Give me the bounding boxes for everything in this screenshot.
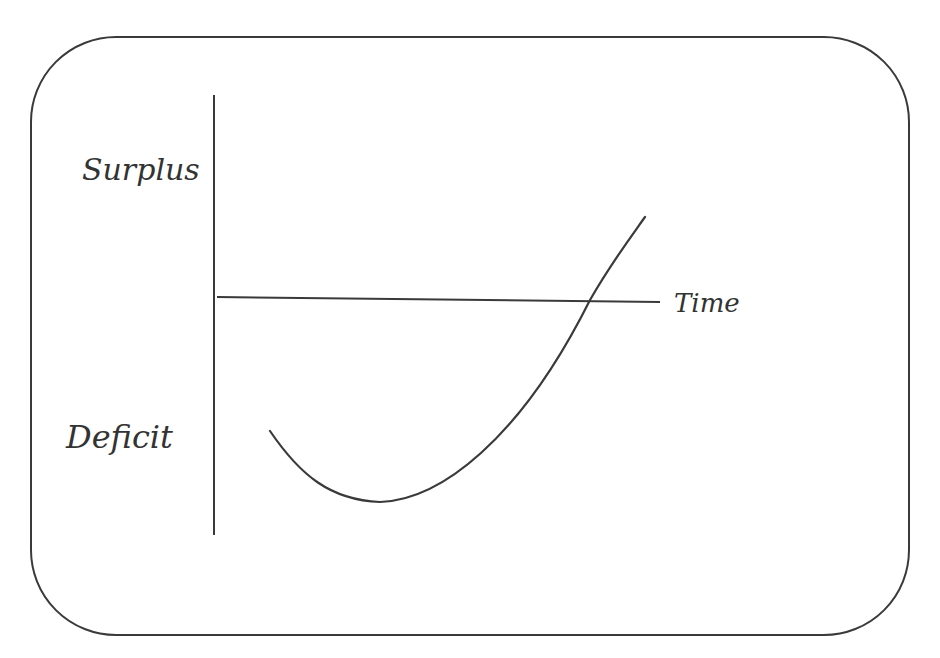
deficit-label: Deficit <box>65 418 173 456</box>
chart-canvas: Surplus Deficit Time <box>0 0 940 658</box>
x-axis <box>217 297 660 302</box>
frame-border <box>31 37 909 635</box>
j-curve <box>270 217 645 502</box>
surplus-label: Surplus <box>82 152 200 187</box>
time-axis-label: Time <box>674 288 740 318</box>
